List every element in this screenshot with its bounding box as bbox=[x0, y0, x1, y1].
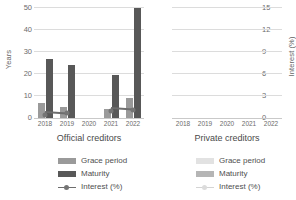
x-tick-official-2019: 2019 bbox=[60, 120, 74, 127]
legend-swatch-maturity-private bbox=[196, 171, 214, 177]
interest-marker-official-2021 bbox=[109, 108, 114, 113]
legend-item-grace-official: Grace period bbox=[58, 155, 127, 167]
gridline bbox=[172, 29, 282, 30]
gridline bbox=[172, 73, 282, 74]
y-tick-left-10: 10 bbox=[24, 92, 32, 100]
gridline bbox=[172, 7, 282, 8]
x-tick-private-2022: 2022 bbox=[264, 120, 278, 127]
legend-label-interest-private: Interest (%) bbox=[219, 183, 260, 191]
panel-title-official: Official creditors bbox=[34, 133, 144, 143]
x-tick-official-2021: 2021 bbox=[104, 120, 118, 127]
bar-maturity-official-2019 bbox=[68, 65, 75, 118]
legend-label-interest-official: Interest (%) bbox=[81, 183, 122, 191]
panel-title-private: Private creditors bbox=[172, 133, 282, 143]
x-tick-official-2022: 2022 bbox=[126, 120, 140, 127]
legend-item-maturity-private: Maturity bbox=[196, 168, 265, 180]
legend-marker-interest-private bbox=[196, 184, 214, 190]
y-tick-left-20: 20 bbox=[24, 70, 32, 78]
x-tick-official-2020: 2020 bbox=[82, 120, 96, 127]
legend-swatch-maturity-official bbox=[58, 171, 76, 177]
gridline bbox=[172, 51, 282, 52]
x-axis-private: 20182019202020212022 bbox=[172, 120, 282, 130]
chart-figure: Years Interest (%) 01020304050 03691215 … bbox=[0, 0, 296, 200]
legend-label-maturity-official: Maturity bbox=[81, 170, 109, 178]
legend-marker-interest-official bbox=[58, 184, 76, 190]
y-tick-left-40: 40 bbox=[24, 26, 32, 34]
x-tick-private-2020: 2020 bbox=[220, 120, 234, 127]
interest-marker-official-2019 bbox=[65, 111, 70, 116]
x-tick-official-2018: 2018 bbox=[38, 120, 52, 127]
legend-swatch-grace-private bbox=[196, 158, 214, 164]
y-tick-left-50: 50 bbox=[24, 4, 32, 12]
legend-private: Grace period Maturity Interest (%) bbox=[196, 155, 265, 194]
gridline bbox=[34, 51, 144, 52]
legend-item-interest-official: Interest (%) bbox=[58, 181, 127, 193]
y-tick-left-0: 0 bbox=[28, 114, 32, 122]
plot-panel-private bbox=[172, 8, 282, 119]
legend-item-interest-private: Interest (%) bbox=[196, 181, 265, 193]
gridline bbox=[34, 7, 144, 8]
gridline bbox=[172, 95, 282, 96]
legend-official: Grace period Maturity Interest (%) bbox=[58, 155, 127, 194]
legend-item-maturity-official: Maturity bbox=[58, 168, 127, 180]
interest-marker-official-2022 bbox=[131, 107, 136, 112]
legend-swatch-grace-official bbox=[58, 158, 76, 164]
x-tick-private-2019: 2019 bbox=[198, 120, 212, 127]
interest-marker-official-2018 bbox=[43, 112, 48, 117]
bar-maturity-official-2018 bbox=[46, 59, 53, 118]
y-axis-title-left: Years bbox=[4, 40, 13, 80]
plot-panel-official bbox=[34, 8, 144, 119]
x-tick-private-2021: 2021 bbox=[242, 120, 256, 127]
y-tick-left-30: 30 bbox=[24, 48, 32, 56]
legend-label-grace-official: Grace period bbox=[81, 157, 127, 165]
gridline bbox=[34, 29, 144, 30]
legend-label-grace-private: Grace period bbox=[219, 157, 265, 165]
bar-maturity-official-2022 bbox=[134, 8, 141, 118]
y-axis-title-right: Interest (%) bbox=[287, 34, 296, 80]
x-axis-official: 20182019202020212022 bbox=[34, 120, 144, 130]
legend-label-maturity-private: Maturity bbox=[219, 170, 247, 178]
x-tick-private-2018: 2018 bbox=[176, 120, 190, 127]
y-axis-left: 01020304050 bbox=[14, 0, 32, 130]
legend-item-grace-private: Grace period bbox=[196, 155, 265, 167]
